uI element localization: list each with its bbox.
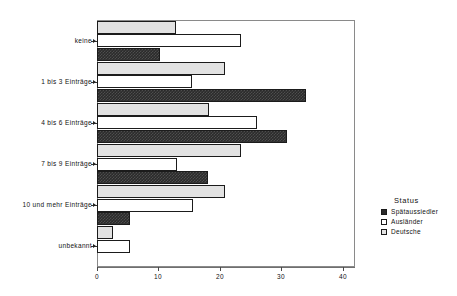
bar-auslaender-4 xyxy=(97,199,193,212)
y-axis-label-4: 10 und mehr Einträge xyxy=(22,201,92,208)
x-axis-label-3: 30 xyxy=(277,273,285,280)
bar-spaet-3 xyxy=(97,171,208,184)
legend-item-auslaender[interactable]: Ausländer xyxy=(381,218,438,225)
bar-auslaender-3 xyxy=(97,158,177,171)
legend-title: Status xyxy=(394,196,438,205)
y-tick-arrow-1 xyxy=(93,80,96,84)
legend-item-spaetaussiedler[interactable]: Spätaussiedler xyxy=(381,208,438,215)
y-axis-label-2: 4 bis 6 Einträge xyxy=(41,119,92,126)
y-axis-label-0: keine xyxy=(75,37,92,44)
y-tick-arrow-0 xyxy=(93,39,96,43)
bar-deutsche-5 xyxy=(97,226,113,239)
y-tick-arrow-5 xyxy=(93,244,96,248)
legend-label-deutsche: Deutsche xyxy=(391,228,421,235)
bar-auslaender-0 xyxy=(97,34,241,47)
bar-deutsche-0 xyxy=(97,21,176,34)
x-tick-2 xyxy=(220,267,221,271)
y-tick-arrow-2 xyxy=(93,121,96,125)
x-axis-line xyxy=(97,267,355,268)
y-axis-label-1: 1 bis 3 Einträge xyxy=(41,78,92,85)
bar-auslaender-2 xyxy=(97,116,257,129)
bar-auslaender-1 xyxy=(97,75,192,88)
legend: Status Spätaussiedler Ausländer Deutsche xyxy=(381,196,438,238)
y-axis-label-3: 7 bis 9 Einträge xyxy=(41,160,92,167)
bar-deutsche-4 xyxy=(97,185,225,198)
legend-swatch-deutsche xyxy=(381,229,387,235)
bar-auslaender-5 xyxy=(97,240,130,253)
legend-label-spaetaussiedler: Spätaussiedler xyxy=(391,208,438,215)
bar-chart: keine1 bis 3 Einträge4 bis 6 Einträge7 b… xyxy=(0,0,457,296)
x-tick-4 xyxy=(343,267,344,271)
x-axis-label-0: 0 xyxy=(95,273,99,280)
bar-spaet-2 xyxy=(97,130,287,143)
x-axis-label-1: 10 xyxy=(154,273,162,280)
x-tick-3 xyxy=(281,267,282,271)
legend-swatch-spaetaussiedler xyxy=(381,209,387,215)
bar-deutsche-3 xyxy=(97,144,241,157)
x-tick-1 xyxy=(158,267,159,271)
x-tick-0 xyxy=(97,267,98,271)
bar-deutsche-2 xyxy=(97,103,209,116)
bar-spaet-0 xyxy=(97,48,160,61)
bar-spaet-4 xyxy=(97,212,130,225)
bar-spaet-1 xyxy=(97,89,306,102)
y-tick-arrow-4 xyxy=(93,203,96,207)
bar-deutsche-1 xyxy=(97,62,225,75)
y-axis-label-5: unbekannt xyxy=(58,242,92,249)
y-tick-arrow-3 xyxy=(93,162,96,166)
x-axis-label-2: 20 xyxy=(216,273,224,280)
legend-label-auslaender: Ausländer xyxy=(391,218,423,225)
legend-item-deutsche[interactable]: Deutsche xyxy=(381,228,438,235)
legend-swatch-auslaender xyxy=(381,219,387,225)
x-axis-label-4: 40 xyxy=(339,273,347,280)
